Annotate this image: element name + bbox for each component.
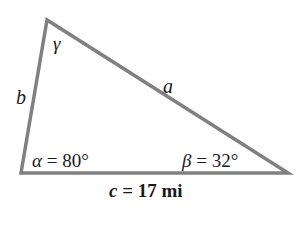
side-c-label: c = 17 mi (109, 181, 183, 200)
side-a-label: a (163, 76, 173, 96)
beta-value: = 32° (191, 150, 238, 171)
angle-gamma-label: γ (53, 34, 61, 53)
alpha-value: = 80° (42, 150, 89, 171)
side-b-label: b (16, 87, 26, 107)
angle-alpha-label: α = 80° (32, 151, 89, 170)
angle-beta-label: β = 32° (182, 151, 238, 170)
c-value: = 17 mi (117, 180, 182, 201)
alpha-symbol: α (32, 150, 42, 171)
